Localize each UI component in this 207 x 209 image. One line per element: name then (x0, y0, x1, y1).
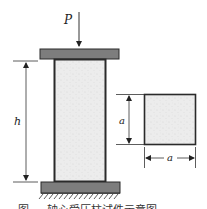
column-diagram: P h a (0, 0, 207, 209)
bottom-support-plate (41, 182, 120, 193)
height-label: h (14, 115, 21, 128)
section-height-label: a (119, 115, 125, 126)
top-loading-plate (40, 49, 119, 59)
figure-caption: 图 … 轴心受压柱试件示意图 (18, 203, 157, 209)
column-specimen (55, 60, 106, 182)
load-label: P (63, 13, 73, 27)
fixed-support-hatch (39, 194, 120, 200)
cross-section (145, 95, 196, 145)
section-width-label: a (167, 152, 173, 163)
